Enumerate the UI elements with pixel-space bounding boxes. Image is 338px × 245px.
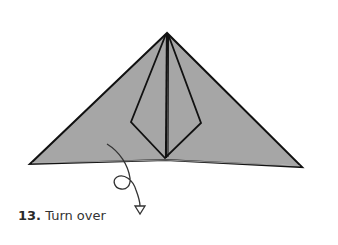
center-crease-inner bbox=[168, 36, 169, 157]
center-crease bbox=[166, 34, 167, 158]
arrowhead-icon bbox=[135, 206, 145, 214]
step-caption: 13. Turn over bbox=[18, 208, 106, 223]
step-number: 13. bbox=[18, 208, 41, 223]
step-instruction: Turn over bbox=[45, 208, 106, 223]
